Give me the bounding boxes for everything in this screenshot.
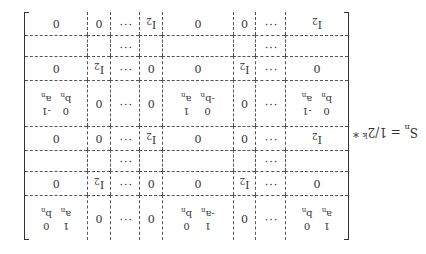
- identity: I2: [146, 133, 156, 146]
- matrix-cell: 0: [25, 126, 88, 150]
- matrix-cell: 0: [233, 196, 256, 240]
- matrix-cell: [285, 36, 348, 57]
- matrix-cell: ···: [110, 171, 139, 195]
- matrix-cell: 10anbn: [25, 196, 88, 240]
- matrix-row: I2···00I2···00: [25, 126, 348, 150]
- matrix-cell: ···: [256, 81, 285, 126]
- lhs-expression: Sn = 1/2k *: [353, 123, 418, 140]
- matrix-row: 0···I200···I20: [25, 171, 348, 195]
- matrix-cell: [140, 36, 163, 57]
- matrix-cell: 0: [88, 81, 111, 126]
- matrix-cell: 0: [88, 12, 111, 36]
- identity: I2: [146, 18, 156, 31]
- equation: Sn = 1/2k * 10anbn···010-anbn0···010anbn…: [0, 0, 426, 254]
- matrix-cell: 0: [163, 57, 234, 81]
- matrix-cell: I2: [140, 126, 163, 150]
- matrix-cell: 0: [285, 57, 348, 81]
- matrix-cell: ···: [110, 36, 139, 57]
- matrix-cell: ···: [256, 150, 285, 171]
- matrix-row: I2···00I2···00: [25, 12, 348, 36]
- identity: I2: [312, 18, 322, 31]
- matrix-row: ······: [25, 36, 348, 57]
- matrix-row: 10anbn···010-anbn0···010anbn: [25, 196, 348, 240]
- matrix-cell: 0: [25, 57, 88, 81]
- matrix-cell: ···: [110, 81, 139, 126]
- matrix-cell: 10anbn: [285, 196, 348, 240]
- matrix-cell: [88, 36, 111, 57]
- block-C: 0-1bnan: [302, 89, 332, 117]
- identity: I2: [312, 133, 322, 146]
- matrix-cell: 0: [233, 81, 256, 126]
- matrix-cell: I2: [285, 12, 348, 36]
- matrix-cell: [163, 36, 234, 57]
- matrix-cell: 0: [25, 171, 88, 195]
- matrix-cell: 0: [88, 196, 111, 240]
- matrix-cell: I2: [233, 171, 256, 195]
- matrix-cell: [233, 150, 256, 171]
- matrix-cell: ···: [110, 57, 139, 81]
- matrix-cell: ···: [110, 126, 139, 150]
- matrix-cell: 0: [163, 171, 234, 195]
- matrix-cell: 0: [163, 12, 234, 36]
- matrix-cell: ···: [256, 36, 285, 57]
- matrix-cell: 0-1bnan: [285, 81, 348, 126]
- matrix-cell: ···: [256, 171, 285, 195]
- matrix-cell: 0-1bnan: [25, 81, 88, 126]
- identity: I2: [94, 63, 104, 76]
- matrix-cell: 0: [140, 57, 163, 81]
- block-D: 01-bnan: [181, 89, 215, 117]
- matrix-cell: ···: [256, 12, 285, 36]
- block-matrix: 10anbn···010-anbn0···010anbn0···I200···I…: [24, 12, 349, 240]
- matrix-cell: 0: [25, 12, 88, 36]
- matrix-cell: ···: [256, 196, 285, 240]
- matrix-cell: ···: [256, 57, 285, 81]
- matrix-cell: [140, 150, 163, 171]
- matrix-cell: 01-bnan: [163, 81, 234, 126]
- matrix-cell: I2: [88, 171, 111, 195]
- matrix-cell: [25, 36, 88, 57]
- matrix-row: ······: [25, 150, 348, 171]
- matrix-cell: ···: [110, 150, 139, 171]
- matrix-cell: ···: [256, 126, 285, 150]
- matrix-cell: [233, 36, 256, 57]
- matrix-cell: 0: [233, 12, 256, 36]
- matrix-cell: [25, 150, 88, 171]
- matrix-cell: ···: [110, 12, 139, 36]
- matrix-cell: 0: [163, 126, 234, 150]
- block-B: 10-anbn: [181, 204, 215, 232]
- identity: I2: [239, 178, 249, 191]
- matrix-cell: I2: [285, 126, 348, 150]
- matrix-cell: I2: [88, 57, 111, 81]
- matrix-cell: 0: [140, 171, 163, 195]
- matrix-cell: 0: [140, 81, 163, 126]
- matrix-cell: [163, 150, 234, 171]
- matrix-cell: 0: [140, 196, 163, 240]
- matrix-cell: I2: [140, 12, 163, 36]
- matrix-cell: 0: [285, 171, 348, 195]
- matrix-cell: [88, 150, 111, 171]
- identity: I2: [94, 178, 104, 191]
- matrix-row: 0-1bnan···001-bnan0···00-1bnan: [25, 81, 348, 126]
- matrix-cell: 0: [233, 126, 256, 150]
- block-A: 10anbn: [302, 204, 332, 232]
- matrix-cell: 10-anbn: [163, 196, 234, 240]
- matrix-cell: [285, 150, 348, 171]
- matrix-cell: I2: [233, 57, 256, 81]
- block-A: 10anbn: [41, 204, 71, 232]
- matrix-cell: ···: [110, 196, 139, 240]
- matrix-cell: 0: [88, 126, 111, 150]
- identity: I2: [239, 63, 249, 76]
- matrix-row: 0···I200···I20: [25, 57, 348, 81]
- block-C: 0-1bnan: [41, 89, 71, 117]
